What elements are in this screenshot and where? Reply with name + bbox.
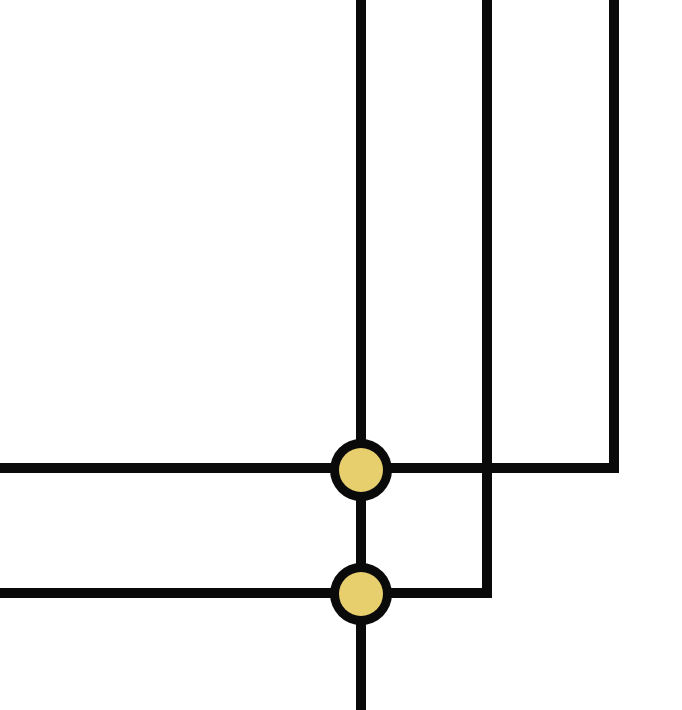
junction-node-j1 (339, 448, 383, 492)
junction-diagram (0, 0, 682, 710)
junction-node-j2 (339, 572, 383, 616)
